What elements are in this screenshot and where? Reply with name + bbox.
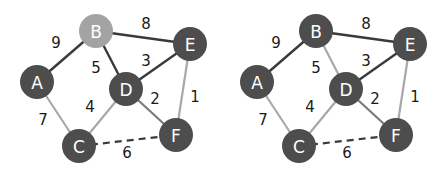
node-a: A <box>240 65 274 99</box>
graph-diagram: 985374216ABCDEF 985374216ABCDEF <box>0 0 445 174</box>
node-c: C <box>62 129 96 163</box>
node-c: C <box>282 129 316 163</box>
node-label: A <box>251 73 263 93</box>
node-b: B <box>299 14 333 48</box>
edge-weight-b-e: 8 <box>361 15 371 33</box>
node-a: A <box>20 65 54 99</box>
graph-left: 985374216ABCDEF <box>20 14 207 163</box>
edge-weight-d-e: 3 <box>141 52 151 70</box>
node-f: F <box>159 118 193 152</box>
nodes: ABCDEF <box>20 14 207 163</box>
edge-weight-a-c: 7 <box>38 111 48 129</box>
edge-weight-d-e: 3 <box>361 52 371 70</box>
node-d: D <box>109 72 143 106</box>
edge-weight-d-f: 2 <box>150 90 160 108</box>
node-label: E <box>405 35 416 55</box>
node-b: B <box>79 14 113 48</box>
edge-weight-c-f: 6 <box>342 144 352 162</box>
edge-weight-a-c: 7 <box>258 111 268 129</box>
node-label: A <box>31 73 43 93</box>
edge-weight-a-b: 9 <box>51 34 61 52</box>
edge-weight-c-d: 4 <box>85 98 95 116</box>
edge-weight-b-d: 5 <box>91 59 101 77</box>
node-e: E <box>173 27 207 61</box>
node-label: E <box>185 35 196 55</box>
node-f: F <box>379 118 413 152</box>
edge-weight-b-e: 8 <box>141 15 151 33</box>
edge-weight-e-f: 1 <box>190 88 200 106</box>
node-label: B <box>90 22 102 42</box>
node-label: F <box>391 126 401 146</box>
edge-weight-b-d: 5 <box>311 59 321 77</box>
nodes: ABCDEF <box>240 14 427 163</box>
node-label: F <box>171 126 181 146</box>
edge-weight-c-f: 6 <box>122 144 132 162</box>
edge-weight-c-d: 4 <box>305 98 315 116</box>
node-label: C <box>73 137 85 157</box>
node-d: D <box>329 72 363 106</box>
edge-weight-e-f: 1 <box>410 88 420 106</box>
node-label: D <box>119 80 132 100</box>
edge-weight-d-f: 2 <box>370 90 380 108</box>
node-label: C <box>293 137 305 157</box>
graph-right: 985374216ABCDEF <box>240 14 427 163</box>
node-e: E <box>393 27 427 61</box>
node-label: D <box>339 80 352 100</box>
edge-weight-a-b: 9 <box>271 34 281 52</box>
node-label: B <box>310 22 322 42</box>
